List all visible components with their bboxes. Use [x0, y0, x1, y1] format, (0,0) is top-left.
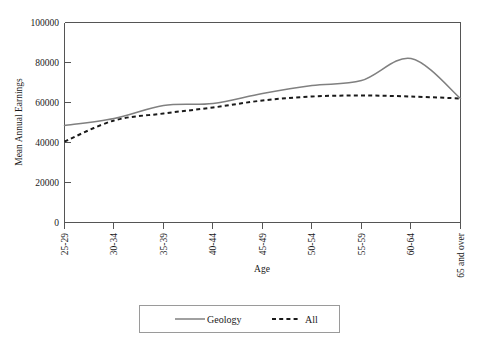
y-tick-label-20000: 20000 [35, 178, 59, 188]
x-tick-label-35-39: 35-39 [159, 233, 169, 255]
legend-label-all: All [305, 314, 318, 325]
x-tick-label-30-34: 30-34 [109, 233, 119, 255]
x-tick-label-55-59: 55-59 [357, 233, 367, 255]
y-tick-label-80000: 80000 [35, 58, 59, 68]
chart-figure: 0 20000 40000 60000 80000 100000 Mean An… [0, 0, 481, 349]
y-axis-tick-labels: 0 20000 40000 60000 80000 100000 [31, 18, 60, 228]
legend-label-geology: Geology [207, 314, 241, 325]
plot-axes [65, 23, 461, 223]
line-chart: 0 20000 40000 60000 80000 100000 Mean An… [0, 0, 481, 349]
y-axis-ticks [65, 23, 71, 223]
y-tick-label-40000: 40000 [35, 138, 59, 148]
x-axis-ticks [65, 223, 461, 229]
series-line-geology [65, 58, 461, 125]
y-tick-label-100000: 100000 [31, 18, 60, 28]
chart-legend: Geology All [140, 306, 340, 333]
y-tick-label-0: 0 [54, 218, 59, 228]
series-line-all [65, 96, 461, 142]
x-tick-label-40-44: 40-44 [208, 233, 218, 255]
x-tick-label-50-54: 50-54 [307, 233, 317, 255]
x-tick-label-60-64: 60-64 [406, 233, 416, 255]
x-tick-label-45-49: 45-49 [258, 233, 268, 255]
x-tick-label-65-and-over: 65 and over [456, 232, 466, 278]
x-tick-label-25-29: 25-29 [60, 233, 70, 255]
x-axis-title: Age [254, 264, 270, 274]
y-axis-title: Mean Annual Earnings [14, 78, 24, 166]
y-tick-label-60000: 60000 [35, 98, 59, 108]
